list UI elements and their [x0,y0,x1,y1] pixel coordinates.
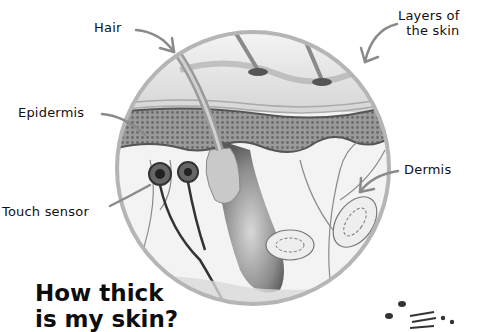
label-layers-line2: the skin [398,23,459,38]
title-line-1: How thick [35,280,178,306]
label-hair: Hair [94,20,122,35]
label-layers-of-skin: Layers of the skin [398,8,459,38]
label-dermis: Dermis [404,162,451,177]
title-line-2: is my skin? [35,306,178,332]
doodle-icon [386,302,453,328]
page-title: How thick is my skin? [35,280,178,332]
label-epidermis: Epidermis [18,105,84,120]
label-touch-sensor: Touch sensor [2,204,89,219]
label-layers-line1: Layers of [398,8,459,23]
